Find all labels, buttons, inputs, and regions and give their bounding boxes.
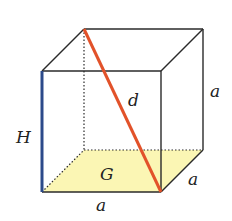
cube-diagram: H G d a a a bbox=[0, 0, 232, 221]
label-d: d bbox=[128, 90, 139, 110]
label-a-depth: a bbox=[188, 169, 198, 189]
label-a-right: a bbox=[210, 81, 220, 101]
label-G: G bbox=[100, 164, 114, 184]
edge-top-right bbox=[161, 29, 203, 71]
edge-top-left bbox=[42, 29, 84, 71]
label-a-bottom: a bbox=[96, 195, 106, 215]
label-H: H bbox=[15, 127, 32, 147]
base-face-G bbox=[42, 150, 203, 192]
